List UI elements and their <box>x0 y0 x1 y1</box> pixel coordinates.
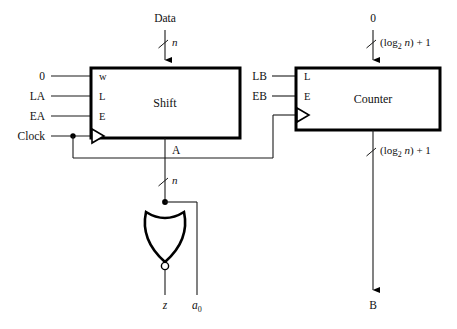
zero-input-right-label: 0 <box>370 12 376 24</box>
nor-gate-bubble-icon <box>161 262 168 269</box>
shift-pin-e-label: E <box>99 111 105 122</box>
ea-input-label: EA <box>30 110 46 122</box>
shift-block-label: Shift <box>153 96 177 110</box>
lb-input-label: LB <box>252 70 267 82</box>
shift-pin-l-label: L <box>99 91 105 102</box>
counter-pin-e-label: E <box>304 91 310 102</box>
shift-output-wire <box>159 138 169 202</box>
nor-gate <box>145 212 185 295</box>
circuit-diagram: Data n 0 LA EA Clock w L E Shift <box>0 0 457 329</box>
counter-input-wires <box>272 76 296 96</box>
shift-pin-w-label: w <box>99 71 107 82</box>
shift-input-wires <box>51 76 91 136</box>
shift-output-label: A <box>172 144 181 156</box>
counter-output-wire <box>367 130 377 290</box>
data-input-label: Data <box>154 12 176 24</box>
a0-output-label: a0 <box>192 299 202 314</box>
zero-input-left-label: 0 <box>39 70 45 82</box>
counter-input-bus-width-label: (log2 n) + 1 <box>380 36 431 51</box>
z-output-label: z <box>162 299 168 311</box>
clock-input-label: Clock <box>18 130 46 142</box>
la-input-label: LA <box>30 90 46 102</box>
data-input-wire <box>159 30 169 60</box>
data-bus-width-label: n <box>172 36 178 48</box>
counter-pin-l-label: L <box>304 71 310 82</box>
shift-output-bus-width-label: n <box>172 174 178 186</box>
circuit-svg: Data n 0 LA EA Clock w L E Shift <box>0 0 457 329</box>
counter-output-bus-width-label: (log2 n) + 1 <box>380 144 431 159</box>
counter-input-wire <box>367 30 377 60</box>
counter-output-label: B <box>369 299 377 311</box>
eb-input-label: EB <box>252 90 267 102</box>
counter-block-label: Counter <box>354 92 393 106</box>
